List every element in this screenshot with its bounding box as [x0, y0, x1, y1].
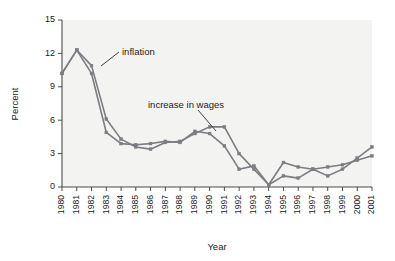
data-point-marker — [164, 140, 167, 143]
x-tick-label: 1987 — [160, 195, 170, 214]
data-point-marker — [326, 166, 329, 169]
y-tick-label: 3 — [50, 148, 55, 158]
data-point-marker — [341, 163, 344, 166]
y-axis: 03691215 Percent — [9, 14, 62, 191]
data-point-marker — [90, 72, 93, 75]
x-tick-label: 1989 — [189, 195, 199, 214]
x-tick-label: 1983 — [101, 195, 111, 214]
y-tick-label: 12 — [45, 48, 55, 58]
x-tick-label: 1999 — [337, 195, 347, 214]
data-point-marker — [267, 183, 270, 186]
data-point-marker — [371, 154, 374, 157]
chart-figure: 03691215 Percent 19801981198219831984198… — [0, 0, 395, 261]
x-tick-label: 1994 — [263, 195, 273, 214]
data-point-marker — [75, 49, 78, 52]
x-tick-label: 1982 — [86, 195, 96, 214]
data-point-marker — [326, 174, 329, 177]
data-point-marker — [297, 166, 300, 169]
x-tick-marks — [62, 187, 372, 191]
x-tick-label: 2001 — [366, 195, 376, 214]
x-tick-label: 1992 — [233, 195, 243, 214]
x-tick-label: 1998 — [322, 195, 332, 214]
data-point-marker — [90, 64, 93, 67]
data-point-marker — [371, 146, 374, 149]
x-tick-label: 1985 — [130, 195, 140, 214]
x-tick-labels: 1980198119821983198419851986198719881989… — [56, 195, 376, 214]
x-tick-label: 1984 — [115, 195, 125, 214]
x-tick-label: 1993 — [248, 195, 258, 214]
data-point-marker — [120, 142, 123, 145]
data-point-marker — [120, 138, 123, 141]
x-tick-label: 1991 — [219, 195, 229, 214]
data-point-marker — [134, 143, 137, 146]
x-tick-label: 1988 — [174, 195, 184, 214]
x-tick-label: 1981 — [71, 195, 81, 214]
data-point-marker — [223, 144, 226, 147]
y-tick-labels: 03691215 — [45, 14, 55, 191]
data-point-marker — [253, 164, 256, 167]
wages-annotation-label: increase in wages — [148, 99, 224, 110]
y-axis-title: Percent — [9, 87, 20, 120]
x-tick-label: 1997 — [307, 195, 317, 214]
data-point-marker — [282, 174, 285, 177]
x-tick-label: 1980 — [56, 195, 66, 214]
data-point-marker — [208, 132, 211, 135]
x-tick-label: 1995 — [278, 195, 288, 214]
y-tick-label: 0 — [50, 181, 55, 191]
x-tick-label: 1990 — [204, 195, 214, 214]
data-point-marker — [193, 130, 196, 133]
x-axis-title: Year — [207, 241, 226, 252]
y-tick-marks — [58, 20, 62, 187]
x-tick-label: 1986 — [145, 195, 155, 214]
data-point-marker — [238, 168, 241, 171]
data-point-marker — [297, 177, 300, 180]
inflation-annotation-label: inflation — [122, 46, 155, 57]
y-tick-label: 9 — [50, 81, 55, 91]
data-point-marker — [61, 72, 64, 75]
data-point-marker — [149, 148, 152, 151]
data-point-marker — [105, 131, 108, 134]
data-point-marker — [208, 125, 211, 128]
y-tick-label: 6 — [50, 115, 55, 125]
x-tick-label: 2000 — [352, 195, 362, 214]
data-point-marker — [149, 142, 152, 145]
data-point-marker — [223, 125, 226, 128]
y-tick-label: 15 — [45, 14, 55, 24]
x-axis: 1980198119821983198419851986198719881989… — [56, 187, 376, 252]
x-tick-label: 1996 — [292, 195, 302, 214]
data-point-marker — [312, 168, 315, 171]
data-point-marker — [341, 168, 344, 171]
data-point-marker — [238, 152, 241, 155]
data-point-marker — [105, 118, 108, 121]
data-point-marker — [179, 141, 182, 144]
line-chart: 03691215 Percent 19801981198219831984198… — [0, 0, 395, 261]
data-point-marker — [282, 161, 285, 164]
data-point-marker — [356, 159, 359, 162]
